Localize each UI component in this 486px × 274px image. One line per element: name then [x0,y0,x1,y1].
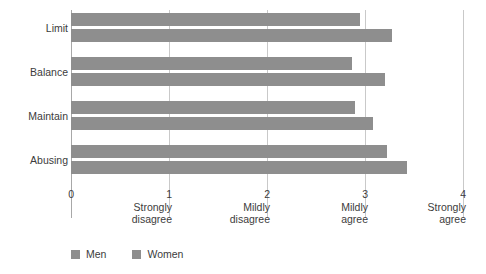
tick-label-1: 1Stronglydisagree [86,188,172,226]
tick-label-0: 0 [0,188,74,201]
tick-number: 0 [0,188,74,201]
legend-swatch-icon [71,250,80,259]
tick-description-line1: Strongly [380,201,466,214]
tick-description-line2: disagree [86,213,172,226]
bar-abusing-women [71,161,407,174]
legend-label: Women [147,248,183,260]
tick-description-line1: Mildly [184,201,270,214]
tick-label-4: 4Stronglyagree [380,188,466,226]
bar-balance-men [71,57,352,70]
legend-label: Men [86,248,106,260]
tick-label-2: 2Mildlydisagree [184,188,270,226]
tick-number: 3 [282,188,368,201]
legend-item-women[interactable]: Women [132,248,183,260]
category-label-balance: Balance [4,66,68,78]
category-label-maintain: Maintain [4,110,68,122]
bar-limit-men [71,13,360,26]
category-label-limit: Limit [4,22,68,34]
tick-description-line2: disagree [184,213,270,226]
tick-description-line1: Mildly [282,201,368,214]
bar-maintain-women [71,117,373,130]
tick-number: 2 [184,188,270,201]
tick-description-line2: agree [380,213,466,226]
bar-maintain-men [71,101,355,114]
bar-balance-women [71,73,385,86]
bar-group [71,57,463,101]
tick-description-line1: Strongly [86,201,172,214]
legend-item-men[interactable]: Men [71,248,106,260]
bar-limit-women [71,29,392,42]
bar-group [71,101,463,145]
plot-area [71,10,463,186]
bar-group [71,13,463,57]
legend-swatch-icon [132,250,141,259]
bar-group [71,145,463,189]
tick-description-line2: agree [282,213,368,226]
category-axis-labels: LimitBalanceMaintainAbusing [0,10,68,186]
tick-number: 4 [380,188,466,201]
bar-abusing-men [71,145,387,158]
tick-number: 1 [86,188,172,201]
category-label-abusing: Abusing [4,154,68,166]
tick-label-3: 3Mildlyagree [282,188,368,226]
chart-legend: MenWomen [71,245,183,263]
gridline-4 [463,10,464,218]
grouped-bar-chart: LimitBalanceMaintainAbusing 01Stronglydi… [0,0,486,274]
value-axis-tick-labels: 01Stronglydisagree2Mildlydisagree3Mildly… [0,188,486,234]
